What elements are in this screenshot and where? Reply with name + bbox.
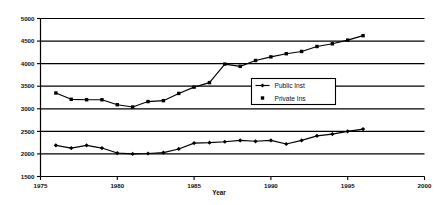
data-point-1-1985	[192, 85, 195, 88]
data-point-0-1992	[300, 138, 304, 142]
data-point-1-1990	[269, 55, 272, 58]
data-point-0-1982	[146, 151, 150, 155]
data-point-1-1976	[54, 91, 57, 94]
data-point-1-1980	[116, 103, 119, 106]
data-point-1-1994	[331, 42, 334, 45]
data-point-1-1988	[238, 65, 241, 68]
y-tick-label-5000: 5000	[21, 15, 35, 22]
data-point-0-1986	[207, 141, 211, 145]
data-point-0-1985	[192, 141, 196, 145]
data-point-0-1988	[238, 138, 242, 142]
data-point-1-1982	[146, 100, 149, 103]
y-tick-label-2500: 2500	[21, 128, 35, 135]
legend-label: Public Inst	[275, 82, 306, 89]
chart-legend[interactable]: Public InstPrivate Ins	[252, 79, 336, 105]
x-tick-label-1980: 1980	[110, 182, 124, 189]
data-point-1-1986	[208, 81, 211, 84]
y-tick-label-3000: 3000	[21, 105, 35, 112]
data-point-0-1976	[54, 143, 58, 147]
data-point-0-1994	[330, 132, 334, 136]
x-tick-label-1990: 1990	[264, 182, 278, 189]
data-point-1-1995	[346, 38, 349, 41]
data-point-1-1977	[70, 98, 73, 101]
data-point-0-1979	[100, 146, 104, 150]
y-tick-label-3500: 3500	[21, 82, 35, 89]
data-point-1-1987	[223, 62, 226, 65]
data-point-1-1984	[177, 92, 180, 95]
data-point-0-1978	[84, 143, 88, 147]
x-tick-label-2000: 2000	[418, 182, 432, 189]
data-point-1-1996	[361, 34, 364, 37]
data-point-0-1989	[253, 139, 257, 143]
legend-label: Private Ins	[275, 95, 307, 102]
data-point-1-1991	[285, 52, 288, 55]
data-point-1-1978	[85, 98, 88, 101]
gridlines-group	[41, 19, 425, 177]
data-point-1-1979	[100, 98, 103, 101]
x-tick-label-1975: 1975	[34, 182, 48, 189]
data-point-0-1993	[315, 134, 319, 138]
data-point-1-1993	[315, 45, 318, 48]
x-tick-label-1985: 1985	[187, 182, 201, 189]
line-chart-plot: 15002000250030003500400045005000 1975198…	[0, 0, 439, 205]
data-point-0-1995	[346, 129, 350, 133]
x-axis-title: Year	[212, 189, 226, 196]
data-point-1-1983	[162, 99, 165, 102]
data-point-0-1987	[223, 140, 227, 144]
data-point-0-1996	[361, 127, 365, 131]
y-tick-label-4500: 4500	[21, 37, 35, 44]
data-point-1-1989	[254, 59, 257, 62]
data-point-1-1981	[131, 105, 134, 108]
y-tick-label-4000: 4000	[21, 60, 35, 67]
x-tick-labels-group: 197519801985199019952000	[34, 182, 432, 189]
data-point-0-1977	[69, 146, 73, 150]
chart-container: 15002000250030003500400045005000 1975198…	[0, 0, 439, 205]
data-point-1-1992	[300, 50, 303, 53]
data-point-0-1984	[177, 147, 181, 151]
y-tick-label-2000: 2000	[21, 150, 35, 157]
data-point-0-1981	[131, 152, 135, 156]
y-tick-label-1500: 1500	[21, 173, 35, 180]
data-point-0-1990	[269, 138, 273, 142]
data-point-0-1991	[284, 142, 288, 146]
x-tick-label-1995: 1995	[341, 182, 355, 189]
y-tick-labels-group: 15002000250030003500400045005000	[21, 15, 35, 180]
legend-marker-square	[261, 96, 264, 99]
